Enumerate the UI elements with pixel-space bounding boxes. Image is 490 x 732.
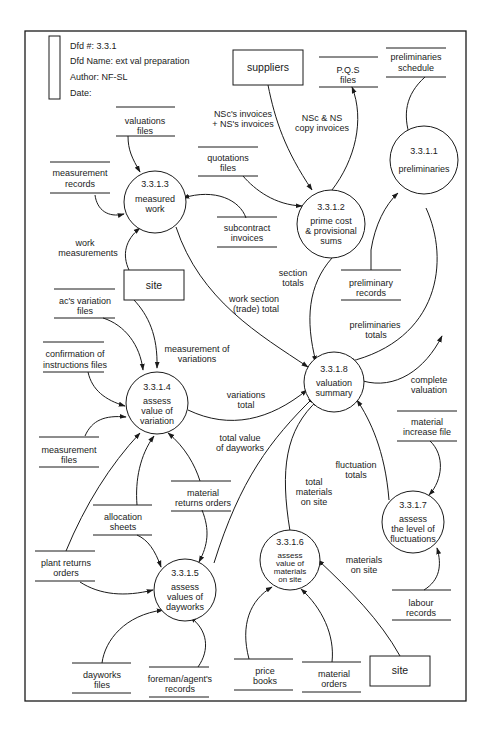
process-3-3-1-2[interactable]: 3.3.1.2 prime cost & provisional sums [297, 190, 365, 258]
svg-text:on site: on site [351, 565, 378, 575]
svg-text:price: price [255, 666, 275, 676]
flow-materials-on-site: materials [346, 555, 383, 565]
svg-text:on site: on site [278, 575, 302, 584]
flow-work-section-total: work section [228, 294, 279, 304]
svg-text:3.3.1.4: 3.3.1.4 [143, 382, 171, 392]
store-material-orders[interactable]: material orders [302, 662, 361, 692]
svg-text:preliminaries: preliminaries [390, 52, 442, 62]
svg-text:material: material [318, 669, 350, 679]
flow-work-measurements: work [74, 238, 95, 248]
svg-text:copy invoices: copy invoices [295, 123, 350, 133]
store-dayworks-files[interactable]: dayworks files [72, 663, 131, 693]
flow-complete-valuation: complete [411, 375, 448, 385]
store-acs-variation-files[interactable]: ac's variation files [54, 289, 115, 318]
process-3-3-1-5[interactable]: 3.3.1.5 assess values of dayworks [154, 559, 216, 621]
svg-text:measurements: measurements [58, 248, 118, 258]
flow-measurement-of-variations: measurement of [164, 344, 230, 354]
svg-text:invoices: invoices [231, 233, 264, 243]
store-foreman-agents-records[interactable]: foreman/agent's records [148, 667, 213, 697]
svg-text:valuations: valuations [125, 116, 166, 126]
svg-text:prime cost: prime cost [310, 216, 352, 226]
store-allocation-sheets[interactable]: allocation sheets [93, 505, 152, 535]
process-3-3-1-8[interactable]: 3.3.1.8 valuation summary [304, 352, 364, 412]
svg-text:material: material [187, 488, 219, 498]
svg-text:fluctuations: fluctuations [390, 534, 436, 544]
svg-text:of dayworks: of dayworks [216, 443, 265, 453]
svg-text:subcontract: subcontract [224, 223, 271, 233]
svg-text:materials: materials [296, 487, 333, 497]
dfd-name: Dfd Name: ext val preparation [70, 56, 190, 66]
svg-text:files: files [220, 163, 237, 173]
svg-text:totals: totals [365, 330, 387, 340]
process-3-3-1-6[interactable]: 3.3.1.6 assess value of materials on sit… [260, 530, 320, 590]
svg-text:the level of: the level of [391, 524, 435, 534]
svg-text:+ NS's invoices: + NS's invoices [212, 119, 274, 129]
store-confirmation-instructions-files[interactable]: confirmation of instructions files [43, 342, 108, 372]
entity-site-top[interactable]: site [124, 270, 184, 300]
svg-text:measurement: measurement [52, 168, 108, 178]
store-measurement-records[interactable]: measurement records [50, 162, 110, 193]
svg-text:3.3.1.3: 3.3.1.3 [141, 179, 169, 189]
svg-text:valuation: valuation [316, 378, 352, 388]
svg-text:plant returns: plant returns [41, 558, 92, 568]
svg-text:assess: assess [399, 514, 428, 524]
svg-text:assess: assess [171, 582, 200, 592]
svg-text:allocation: allocation [104, 512, 142, 522]
svg-text:files: files [94, 680, 111, 690]
process-3-3-1-7[interactable]: 3.3.1.7 assess the level of fluctuations [382, 491, 444, 553]
svg-text:quotations: quotations [207, 153, 249, 163]
svg-text:records: records [65, 179, 96, 189]
store-labour-records[interactable]: labour records [392, 590, 451, 620]
svg-text:files: files [61, 455, 78, 465]
store-material-returns-orders[interactable]: material returns orders [171, 481, 232, 511]
store-material-increase-file[interactable]: material increase file [397, 411, 457, 441]
store-price-books[interactable]: price books [234, 659, 293, 690]
entity-suppliers-label: suppliers [247, 61, 289, 73]
process-3-3-1-1[interactable]: 3.3.1.1 preliminaries [390, 126, 458, 194]
flow-nscs-invoices: NSc's invoices [214, 109, 273, 119]
svg-text:ac's variation: ac's variation [59, 296, 111, 306]
svg-text:value of: value of [141, 406, 173, 416]
entity-site-bottom[interactable]: site [370, 656, 430, 686]
process-3-3-1-4[interactable]: 3.3.1.4 assess value of variation [126, 372, 188, 434]
svg-text:variations: variations [178, 354, 217, 364]
svg-text:sheets: sheets [110, 522, 137, 532]
flow-total-materials-on-site: total [305, 477, 322, 487]
svg-text:material: material [411, 417, 443, 427]
flow-nsc-ns-copy-invoices: NSc & NS [302, 113, 343, 123]
flow-total-value-dayworks: total value [219, 433, 260, 443]
svg-text:returns orders: returns orders [175, 498, 232, 508]
svg-text:foreman/agent's: foreman/agent's [148, 674, 213, 684]
svg-text:labour: labour [408, 598, 433, 608]
svg-text:& provisional: & provisional [305, 226, 357, 236]
dfd-number: Dfd #: 3.3.1 [70, 41, 117, 51]
entity-suppliers[interactable]: suppliers [233, 50, 303, 85]
store-pqs-files[interactable]: P.Q.S files [319, 57, 378, 87]
svg-text:orders: orders [321, 679, 347, 689]
svg-text:dayworks: dayworks [166, 602, 205, 612]
store-preliminary-records[interactable]: preliminary records [341, 270, 401, 300]
store-plant-returns-orders[interactable]: plant returns orders [35, 551, 95, 581]
entity-site-top-label: site [146, 279, 163, 291]
svg-text:totals: totals [345, 470, 367, 480]
svg-text:P.Q.S: P.Q.S [337, 65, 360, 75]
svg-text:records: records [356, 288, 387, 298]
process-3-3-1-3[interactable]: 3.3.1.3 measured work [124, 171, 186, 233]
svg-text:files: files [137, 126, 154, 136]
svg-text:measurement: measurement [41, 445, 97, 455]
svg-text:3.3.1.5: 3.3.1.5 [171, 568, 199, 578]
store-quotations-files[interactable]: quotations files [198, 147, 258, 176]
store-subcontract-invoices[interactable]: subcontract invoices [217, 217, 277, 247]
store-valuations-files[interactable]: valuations files [116, 107, 175, 136]
header-block: Dfd #: 3.3.1 Dfd Name: ext val preparati… [49, 36, 190, 99]
store-measurement-files[interactable]: measurement files [39, 437, 99, 467]
svg-text:orders: orders [53, 568, 79, 578]
svg-text:(trade) total: (trade) total [233, 304, 279, 314]
flows [66, 77, 442, 667]
svg-text:variation: variation [140, 416, 174, 426]
store-preliminaries-schedule[interactable]: preliminaries schedule [386, 48, 446, 77]
svg-text:3.3.1.1: 3.3.1.1 [410, 146, 438, 156]
flow-section-totals: section [279, 268, 308, 278]
svg-text:summary: summary [315, 388, 353, 398]
svg-text:dayworks: dayworks [83, 670, 122, 680]
